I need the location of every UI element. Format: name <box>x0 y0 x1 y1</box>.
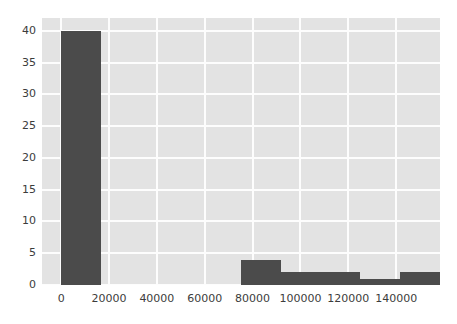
x-tick-label: 60000 <box>165 293 245 304</box>
gridline-vertical <box>252 18 254 285</box>
histogram-bar <box>320 272 360 285</box>
x-tick-label: 120000 <box>308 293 388 304</box>
y-tick-label: 30 <box>22 88 36 99</box>
gridline-vertical <box>299 18 301 285</box>
gridline-vertical <box>156 18 158 285</box>
gridline-vertical <box>108 18 110 285</box>
gridline-horizontal <box>42 189 440 191</box>
x-tick-label: 40000 <box>117 293 197 304</box>
gridline-vertical <box>204 18 206 285</box>
gridline-horizontal <box>42 93 440 95</box>
x-tick-label: 100000 <box>260 293 340 304</box>
histogram-bar <box>241 260 281 285</box>
histogram-bar <box>360 279 400 285</box>
histogram-bar <box>281 272 321 285</box>
gridline-horizontal <box>42 220 440 222</box>
gridline-horizontal <box>42 30 440 32</box>
y-tick-label: 35 <box>22 57 36 68</box>
gridline-horizontal <box>42 125 440 127</box>
y-tick-label: 0 <box>29 279 36 290</box>
x-tick-label: 20000 <box>69 293 149 304</box>
gridline-vertical <box>395 18 397 285</box>
x-tick-label: 0 <box>21 293 101 304</box>
plot-area <box>42 18 440 285</box>
histogram-bar <box>400 272 440 285</box>
x-tick-label: 140000 <box>356 293 436 304</box>
gridline-horizontal <box>42 62 440 64</box>
y-tick-label: 10 <box>22 215 36 226</box>
x-tick-label: 80000 <box>213 293 293 304</box>
y-tick-label: 5 <box>29 247 36 258</box>
gridline-horizontal <box>42 252 440 254</box>
y-tick-label: 20 <box>22 152 36 163</box>
gridline-horizontal <box>42 157 440 159</box>
gridline-vertical <box>347 18 349 285</box>
histogram-figure: 0510152025303540 02000040000600008000010… <box>0 0 457 324</box>
y-tick-label: 40 <box>22 25 36 36</box>
histogram-bar <box>61 31 101 285</box>
y-tick-label: 25 <box>22 120 36 131</box>
y-tick-label: 15 <box>22 184 36 195</box>
